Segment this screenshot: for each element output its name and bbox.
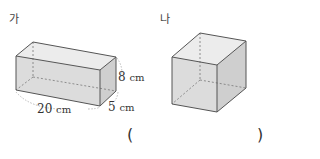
length-dimension: 20 cm bbox=[37, 102, 71, 116]
answer-blank[interactable] bbox=[136, 127, 254, 145]
answer-close-paren: ) bbox=[257, 125, 263, 144]
height-dimension: 8 cm bbox=[118, 70, 145, 84]
depth-dimension: 5 cm bbox=[108, 100, 135, 114]
answer-open-paren: ( bbox=[127, 125, 133, 144]
